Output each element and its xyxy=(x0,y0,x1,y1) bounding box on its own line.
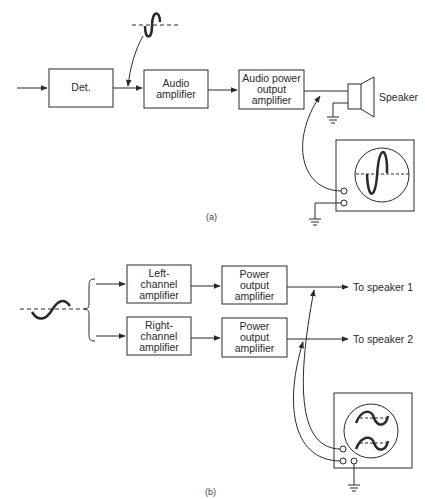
speaker-label: Speaker xyxy=(379,91,418,103)
right-channel-amplifier-label: Right- channel amplifier xyxy=(127,320,191,353)
to-speaker-1-label: To speaker 1 xyxy=(353,281,413,293)
left-channel-amplifier-label: Left- channel amplifier xyxy=(127,268,191,301)
audio-amplifier-label: Audio amplifier xyxy=(144,78,208,100)
power-output-amplifier-2-label: Power output amplifier xyxy=(222,321,287,354)
diagram-canvas xyxy=(0,0,425,499)
det-block-label: Det. xyxy=(49,82,113,93)
power-output-amplifier-1-label: Power output amplifier xyxy=(222,269,287,302)
audio-power-amplifier-label: Audio power output amplifier xyxy=(239,73,304,106)
to-speaker-2-label: To speaker 2 xyxy=(353,333,413,345)
caption-a: (a) xyxy=(206,212,217,222)
caption-b: (b) xyxy=(205,487,216,497)
